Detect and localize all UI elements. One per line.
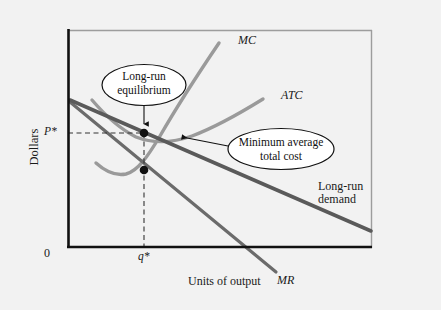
quantity-tick-label: q* [138,250,150,263]
callout-matc-line1: Minimum average [239,136,324,148]
callout-matc-text: Minimum average total cost [230,136,332,163]
equilibrium-point [140,129,149,138]
callout-equilibrium-line1: Long-run [122,70,165,82]
demand-label-line2: demand [318,192,356,206]
callout-matc-leader [182,137,228,146]
demand-line [70,100,371,231]
mr-mc-intersection-point [140,166,149,175]
figure-container: Dollars 0 P* q* MC ATC MR Units of outpu… [0,0,441,328]
mr-curve-label: MR [277,274,294,287]
callout-matc-line2: total cost [260,150,302,162]
atc-curve-label: ATC [281,89,303,102]
demand-curve-label: Long-run demand [318,180,363,207]
price-tick-label: P* [44,125,57,138]
mc-curve [96,43,219,175]
callout-equilibrium-line2: equilibrium [117,84,171,96]
demand-label-line1: Long-run [318,179,363,193]
mc-curve-label: MC [238,34,256,47]
y-axis-label: Dollars [27,105,41,189]
origin-label: 0 [44,247,50,260]
callout-equilibrium-text: Long-run equilibrium [105,70,183,97]
x-axis-label: Units of output [188,275,261,288]
